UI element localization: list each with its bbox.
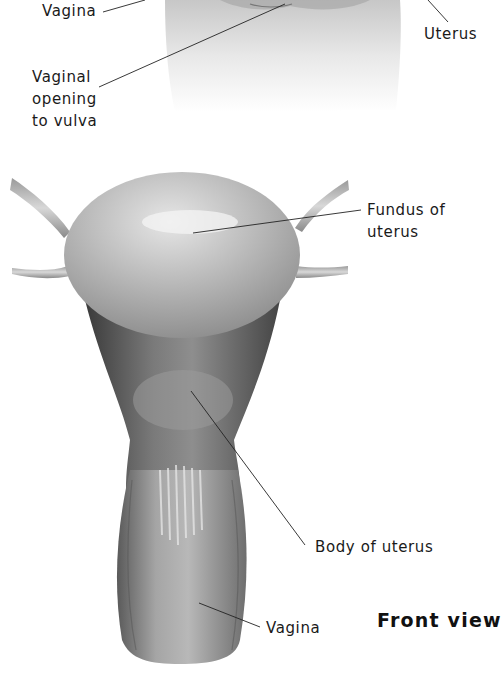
- view-title: Front view: [377, 609, 502, 631]
- fundus: [64, 172, 300, 338]
- label-body-of-uterus: Body of uterus: [315, 536, 433, 558]
- top-illustration: [165, 0, 401, 112]
- label-vagina-top: Vagina: [42, 0, 96, 22]
- label-fundus-of-uterus: Fundus of uterus: [367, 199, 487, 243]
- label-uterus-top: Uterus: [424, 23, 477, 45]
- vagina-tube: [117, 470, 247, 664]
- label-vagina-bottom: Vagina: [266, 617, 320, 639]
- leader-uterus-top: [428, 0, 448, 22]
- leader-vagina-top: [103, 0, 145, 12]
- label-vaginal-opening: Vaginal opening to vulva: [32, 66, 122, 132]
